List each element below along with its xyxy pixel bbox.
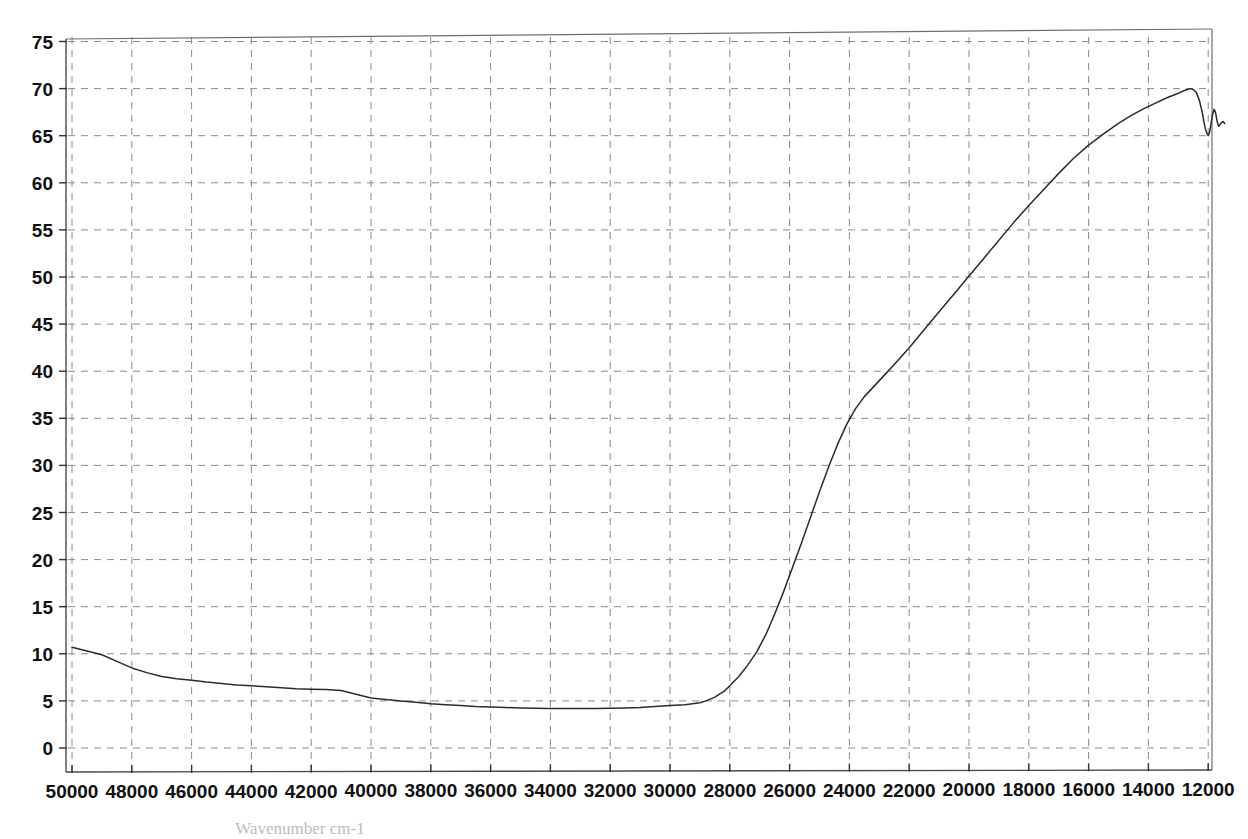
y-tick-label: 55 bbox=[32, 220, 54, 241]
x-tick-label: 50000 bbox=[46, 781, 99, 802]
y-tick-label: 50 bbox=[32, 267, 53, 288]
gridlines bbox=[68, 37, 1208, 771]
x-tick-label: 40000 bbox=[345, 780, 398, 801]
x-tick-label: 46000 bbox=[165, 781, 218, 802]
plot-frame bbox=[66, 29, 1212, 772]
y-tick-label: 25 bbox=[32, 503, 54, 524]
y-tick-label: 40 bbox=[32, 361, 53, 382]
data-curve-transmittance bbox=[72, 89, 1225, 709]
y-tick-label: 30 bbox=[32, 455, 53, 476]
y-tick-label: 35 bbox=[32, 408, 54, 429]
x-tick-label: 26000 bbox=[763, 780, 816, 801]
y-tick-label: 70 bbox=[32, 79, 53, 100]
y-tick-label: 75 bbox=[32, 32, 54, 53]
x-tick-label: 42000 bbox=[285, 781, 338, 802]
x-tick-label: 16000 bbox=[1062, 779, 1115, 800]
x-tick-label: 44000 bbox=[225, 781, 278, 802]
x-tick-label: 28000 bbox=[703, 780, 756, 801]
y-tick-label: 0 bbox=[42, 738, 53, 759]
x-axis-title: Wavenumber cm-1 bbox=[235, 819, 364, 838]
x-tick-label: 14000 bbox=[1122, 779, 1175, 800]
x-tick-label: 18000 bbox=[1002, 779, 1055, 800]
x-axis-tick-labels: 5000048000460004400042000400003800036000… bbox=[46, 779, 1235, 802]
x-tick-label: 20000 bbox=[943, 779, 996, 800]
plot-top-border bbox=[66, 29, 1212, 39]
x-tick-label: 34000 bbox=[524, 780, 577, 801]
spectrum-chart: 051015202530354045505560657075 500004800… bbox=[0, 0, 1248, 839]
chart-canvas: 051015202530354045505560657075 500004800… bbox=[0, 0, 1248, 839]
y-axis-tick-labels: 051015202530354045505560657075 bbox=[32, 32, 54, 760]
x-tick-label: 22000 bbox=[883, 780, 936, 801]
y-tick-label: 10 bbox=[32, 644, 53, 665]
x-tick-label: 48000 bbox=[105, 781, 158, 802]
x-tick-label: 30000 bbox=[644, 780, 697, 801]
x-tick-label: 24000 bbox=[823, 780, 876, 801]
y-tick-label: 60 bbox=[32, 173, 53, 194]
y-tick-label: 45 bbox=[32, 314, 54, 335]
x-axis-line bbox=[66, 770, 1212, 772]
x-axis-title-label: Wavenumber cm-1 bbox=[235, 819, 364, 838]
data-series-layer bbox=[72, 89, 1225, 709]
y-tick-label: 15 bbox=[32, 597, 54, 618]
x-tick-label: 38000 bbox=[404, 780, 457, 801]
y-tick-label: 5 bbox=[42, 691, 53, 712]
y-tick-label: 65 bbox=[32, 126, 54, 147]
x-tick-label: 36000 bbox=[464, 780, 517, 801]
axis-tickmarks bbox=[59, 42, 1208, 773]
x-tick-label: 12000 bbox=[1182, 779, 1235, 800]
x-tick-label: 32000 bbox=[584, 780, 637, 801]
y-tick-label: 20 bbox=[32, 550, 53, 571]
